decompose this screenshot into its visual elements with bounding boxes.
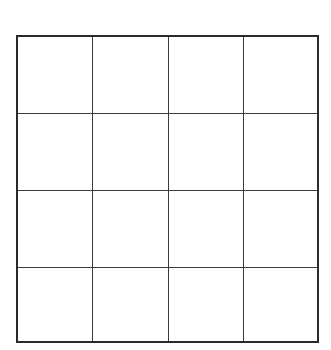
- grid-cell-r2-c1: [18, 114, 93, 191]
- grid-cell-r3-c3: [169, 191, 244, 268]
- grid-cell-r4-c1: [18, 268, 93, 341]
- grid-cell-r4-c4: [244, 268, 317, 341]
- grid-cell-r3-c2: [93, 191, 169, 268]
- grid-cell-r2-c4: [244, 114, 317, 191]
- grid-4x4: [16, 35, 319, 343]
- grid-cell-r4-c3: [169, 268, 244, 341]
- grid-cell-r1-c2: [93, 37, 169, 114]
- grid-cell-r1-c4: [244, 37, 317, 114]
- grid-cell-r4-c2: [93, 268, 169, 341]
- grid-cell-r3-c4: [244, 191, 317, 268]
- grid-cell-r2-c2: [93, 114, 169, 191]
- grid-cell-r3-c1: [18, 191, 93, 268]
- grid-cell-r1-c3: [169, 37, 244, 114]
- grid-cell-r1-c1: [18, 37, 93, 114]
- grid-cell-r2-c3: [169, 114, 244, 191]
